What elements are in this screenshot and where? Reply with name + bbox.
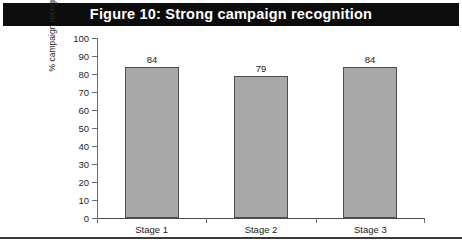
x-tick	[206, 218, 207, 223]
y-axis-title-label: % campaign recognition	[47, 0, 57, 86]
bottom-divider	[0, 237, 462, 239]
y-tick-label: 100	[73, 33, 89, 44]
x-tick	[97, 218, 98, 223]
x-category-label: Stage 2	[245, 224, 278, 235]
figure-container: Figure 10: Strong campaign recognition %…	[0, 0, 462, 247]
bars-layer: 847984	[97, 38, 425, 218]
bar-value-label: 79	[256, 63, 267, 74]
y-tick-label: 60	[78, 105, 89, 116]
bar[interactable]: 79	[234, 76, 288, 218]
y-tick-label: 30	[78, 159, 89, 170]
x-category-label: Stage 1	[135, 224, 168, 235]
x-category-label: Stage 3	[354, 224, 387, 235]
plot-area: 0102030405060708090100 847984 Stage 1Sta…	[97, 38, 425, 218]
bar-chart: % campaign recognition 01020304050607080…	[0, 26, 462, 236]
bar[interactable]: 84	[125, 67, 179, 218]
y-tick-label: 80	[78, 69, 89, 80]
bar-value-label: 84	[365, 54, 376, 65]
y-tick-label: 10	[78, 195, 89, 206]
bar-value-label: 84	[147, 54, 158, 65]
y-tick-label: 90	[78, 51, 89, 62]
y-tick-label: 0	[84, 213, 89, 224]
x-tick	[424, 218, 425, 223]
y-axis-title: % campaign recognition	[47, 0, 57, 86]
figure-title: Figure 10: Strong campaign recognition	[90, 7, 372, 22]
figure-title-banner: Figure 10: Strong campaign recognition	[3, 3, 459, 26]
x-tick	[316, 218, 317, 223]
x-axis-line	[97, 218, 425, 219]
y-tick-label: 20	[78, 177, 89, 188]
y-tick-label: 70	[78, 87, 89, 98]
y-tick-label: 50	[78, 123, 89, 134]
y-tick-label: 40	[78, 141, 89, 152]
bar[interactable]: 84	[343, 67, 397, 218]
